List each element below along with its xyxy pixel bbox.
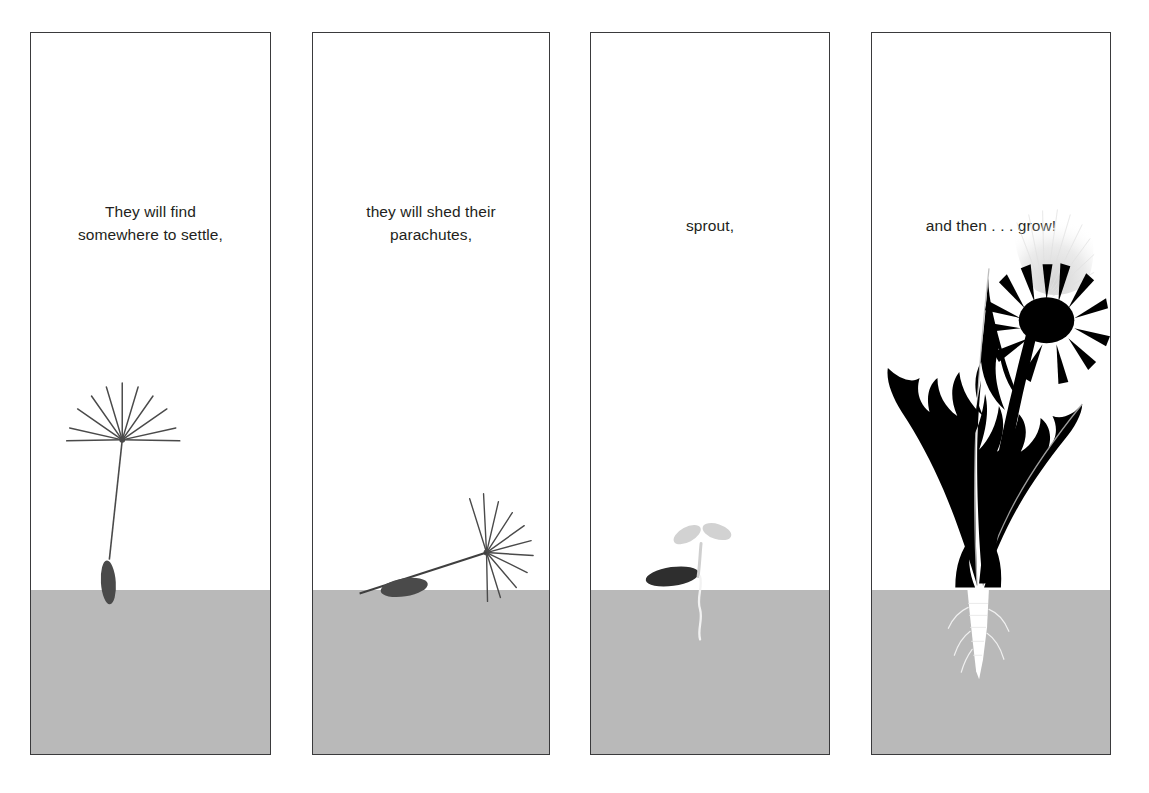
- leaf-left: [887, 268, 1018, 585]
- leaf-right-midrib: [983, 404, 1082, 585]
- leaf-base-left: [955, 538, 975, 588]
- panel-3-inner: sprout,: [591, 33, 829, 754]
- panel-3-caption-line-1: sprout,: [591, 215, 829, 238]
- panel-3-caption: sprout,: [591, 215, 829, 238]
- panel-2-caption-line-1: they will shed their: [313, 201, 549, 224]
- pappus-hub: [484, 550, 490, 556]
- panel-2-caption: they will shed their parachutes,: [313, 201, 549, 247]
- seed-husk: [644, 563, 700, 589]
- panel-1: They will find somewhere to settle,: [30, 32, 271, 755]
- panel-3: sprout,: [590, 32, 830, 755]
- panel-2-caption-line-2: parachutes,: [313, 224, 549, 247]
- seed-head: [985, 263, 1110, 384]
- leaf-left-midrib: [975, 268, 989, 585]
- panel-4-ground: [872, 590, 1110, 754]
- pappus-hub: [119, 437, 125, 443]
- illustration-page: They will find somewhere to settle,: [0, 0, 1149, 793]
- panel-4-caption-line-1: and then . . . grow!: [872, 215, 1110, 238]
- panel-4: and then . . . grow!: [871, 32, 1111, 755]
- cotyledon-right: [700, 520, 733, 543]
- panel-1-caption-line-1: They will find: [31, 201, 270, 224]
- leaf-right: [969, 380, 1082, 585]
- panel-2-inner: they will shed their parachutes,: [313, 33, 549, 754]
- leaf-base-right: [984, 534, 1001, 588]
- cotyledon-left: [671, 521, 704, 548]
- panel-4-inner: and then . . . grow!: [872, 33, 1110, 754]
- panel-1-caption: They will find somewhere to settle,: [31, 201, 270, 247]
- sprout-stem: [698, 544, 701, 577]
- panel-4-caption: and then . . . grow!: [872, 215, 1110, 238]
- panel-1-caption-line-2: somewhere to settle,: [31, 224, 270, 247]
- panel-1-inner: They will find somewhere to settle,: [31, 33, 270, 754]
- panel-2: they will shed their parachutes,: [312, 32, 550, 755]
- panel-2-ground: [313, 590, 549, 754]
- panel-3-ground: [591, 590, 829, 754]
- flower-stalk: [979, 316, 1040, 583]
- panel-1-ground: [31, 590, 270, 754]
